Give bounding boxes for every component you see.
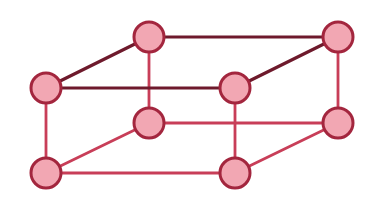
edge-top-front-right-to-top-back-right	[235, 37, 338, 88]
node-bottom-back-right	[323, 108, 353, 138]
node-bottom-back-left	[134, 108, 164, 138]
node-bottom-front-left	[31, 158, 61, 188]
node-bottom-front-right	[220, 158, 250, 188]
node-top-back-right	[323, 22, 353, 52]
edge-bottom-front-left-to-bottom-back-left	[46, 123, 149, 173]
edge-bottom-front-right-to-bottom-back-right	[235, 123, 338, 173]
edge-top-front-left-to-top-back-left	[46, 37, 149, 88]
edges-group	[46, 37, 338, 173]
node-top-front-right	[220, 73, 250, 103]
nodes-group	[31, 22, 353, 188]
node-top-back-left	[134, 22, 164, 52]
node-top-front-left	[31, 73, 61, 103]
cuboid-lattice-diagram	[0, 0, 378, 209]
